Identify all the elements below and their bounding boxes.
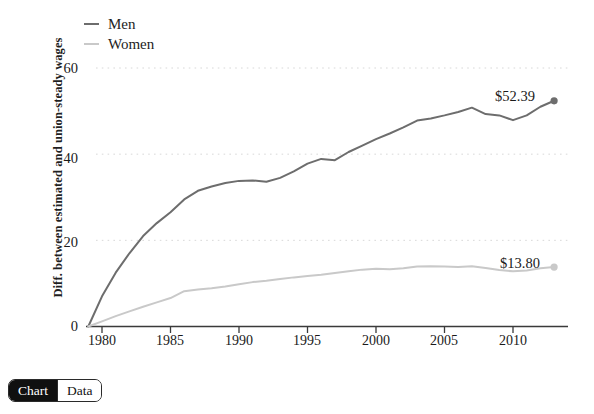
chart-svg <box>0 0 594 414</box>
toggle-data-button[interactable]: Data <box>57 380 101 401</box>
chart-page: Diff. between estimated and union-steady… <box>0 0 594 414</box>
endpoint-dot-men[interactable] <box>551 97 558 104</box>
plot-area <box>0 0 594 414</box>
series-line-men <box>88 101 554 327</box>
series-line-women <box>88 266 554 326</box>
x-tick-marks <box>102 327 513 334</box>
endpoint-dot-women[interactable] <box>551 263 558 270</box>
women-endpoint-label: $13.80 <box>500 255 540 272</box>
men-endpoint-label: $52.39 <box>495 88 535 105</box>
toggle-chart-button[interactable]: Chart <box>9 380 57 401</box>
view-toggle[interactable]: Chart Data <box>8 379 102 402</box>
series-lines <box>88 101 554 327</box>
series-endpoint-dots <box>551 97 558 270</box>
